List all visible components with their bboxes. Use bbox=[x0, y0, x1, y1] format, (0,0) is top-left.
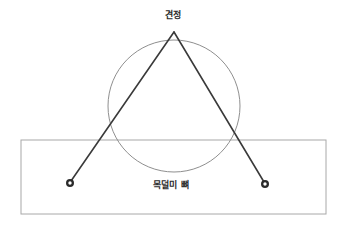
left-measure-line bbox=[71, 32, 174, 181]
diagram-canvas bbox=[0, 0, 348, 231]
head-circle bbox=[108, 40, 240, 172]
bone-structure-label: 목덜미 뼈 bbox=[0, 181, 345, 190]
right-measure-line bbox=[174, 32, 264, 182]
apex-point-label: 견정 bbox=[0, 11, 347, 20]
bone-rectangle bbox=[21, 140, 326, 214]
anatomy-diagram: 견정 목덜미 뼈 bbox=[0, 0, 348, 231]
